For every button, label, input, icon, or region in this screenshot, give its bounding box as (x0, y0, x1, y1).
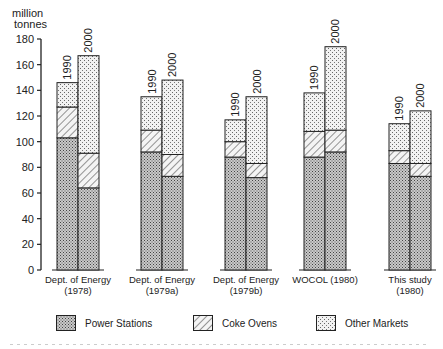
bar-year-label: 2000 (415, 83, 427, 107)
other-markets-swatch-icon (316, 315, 336, 331)
bar-segment (410, 176, 431, 270)
group-label: This study (388, 274, 432, 285)
bar-segment (78, 153, 99, 188)
legend-label: Coke Ovens (222, 318, 277, 329)
bar-segment (325, 47, 346, 130)
group-label-year: (1979b) (230, 285, 263, 296)
bar-group: 19902000WOCOL (1980) (292, 19, 358, 285)
bar-segment (246, 163, 267, 177)
bar-segment (389, 163, 410, 270)
y-tick-label: 80 (22, 161, 34, 173)
bar-year-label: 2000 (330, 19, 342, 43)
y-tick-label: 0 (28, 264, 34, 276)
bar-group: 19902000Dept. of Energy(1979b) (213, 69, 279, 296)
bar-segment (57, 107, 78, 138)
bar-segment (141, 130, 162, 152)
bar-segment (225, 157, 246, 270)
bar-segment (304, 131, 325, 157)
bar-segment (304, 93, 325, 131)
y-tick-label: 120 (16, 110, 34, 122)
group-label-year: (1978) (64, 285, 91, 296)
bar-year-label: 1990 (309, 65, 321, 89)
bar-segment (246, 97, 267, 164)
group-label-year: (1980) (396, 285, 423, 296)
y-tick-label: 60 (22, 187, 34, 199)
bar-segment (78, 188, 99, 270)
group-label: WOCOL (1980) (292, 274, 358, 285)
legend-item-power-stations: Power Stations (56, 315, 152, 331)
bar-segment (225, 120, 246, 142)
bar-segment (410, 163, 431, 176)
bar-segment (225, 142, 246, 157)
bar-segment (57, 83, 78, 107)
bar-segment (141, 97, 162, 130)
group-label: Dept. of Energy (45, 274, 111, 285)
y-tick-label: 160 (16, 59, 34, 71)
bar-year-label: 1990 (230, 92, 242, 116)
bar-segment (57, 138, 78, 270)
y-tick-label: 100 (16, 136, 34, 148)
legend-item-coke-ovens: Coke Ovens (193, 315, 277, 331)
bar-segment (78, 56, 99, 154)
bar-year-label: 2000 (167, 53, 179, 77)
y-tick-label: 180 (16, 33, 34, 45)
bar-group: 19902000Dept. of Energy(1978) (45, 28, 111, 296)
y-tick-label: 140 (16, 84, 34, 96)
legend-label: Other Markets (345, 318, 408, 329)
bar-segment (246, 178, 267, 270)
bar-year-label: 1990 (62, 55, 74, 79)
group-label: Dept. of Energy (129, 274, 195, 285)
bar-year-label: 1990 (146, 69, 158, 93)
bar-segment (141, 152, 162, 270)
bar-group: 19902000Dept. of Energy(1979a) (129, 53, 195, 296)
bar-segment (410, 111, 431, 164)
group-label-year: (1979a) (146, 285, 179, 296)
y-tick-label: 20 (22, 238, 34, 250)
legend-label: Power Stations (85, 318, 152, 329)
bar-segment (162, 176, 183, 270)
y-tick-label: 40 (22, 213, 34, 225)
bar-groups: 19902000Dept. of Energy(1978)19902000Dep… (45, 19, 436, 296)
y-axis-unit-line2: tonnes (14, 18, 48, 30)
coke-ovens-swatch-icon (193, 315, 213, 331)
bar-year-label: 2000 (251, 69, 263, 93)
power-stations-swatch-icon (56, 315, 76, 331)
bar-segment (162, 80, 183, 154)
bar-group: 19902000This study(1980) (384, 83, 436, 296)
bar-year-label: 1990 (394, 96, 406, 120)
legend: Power Stations Coke Ovens Other Markets (0, 315, 443, 335)
bar-segment (389, 124, 410, 151)
bar-segment (304, 157, 325, 270)
bar-segment (325, 130, 346, 152)
bar-segment (389, 151, 410, 164)
bar-segment (162, 155, 183, 177)
group-label: Dept. of Energy (213, 274, 279, 285)
bar-year-label: 2000 (83, 28, 95, 52)
stacked-bar-chart: million tonnes 020406080100120140160180 … (0, 0, 443, 310)
bar-segment (325, 152, 346, 270)
y-axis: 020406080100120140160180 (16, 33, 41, 276)
caption-remnant (10, 343, 430, 346)
legend-item-other-markets: Other Markets (316, 315, 408, 331)
